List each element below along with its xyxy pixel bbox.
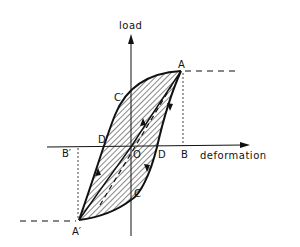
load-axis-label: load: [119, 20, 142, 31]
point-c-prime-label: C′: [114, 92, 124, 103]
deformation-axis-label: deformation: [200, 150, 267, 161]
point-a-label: A: [178, 59, 185, 70]
point-d-prime-label: D′: [98, 134, 109, 145]
point-c-label: C: [134, 188, 141, 199]
load-axis-arrow-icon: [128, 34, 134, 44]
hysteresis-diagram: load deformation A A′ B B′ C C′ D D′ O: [0, 0, 300, 247]
origin-label: O: [133, 149, 141, 160]
point-b-label: B: [181, 149, 188, 160]
point-b-prime-label: B′: [62, 148, 72, 159]
deformation-axis-arrow-icon: [240, 142, 250, 148]
point-d-label: D: [158, 149, 166, 160]
point-a-prime-label: A′: [72, 226, 82, 237]
